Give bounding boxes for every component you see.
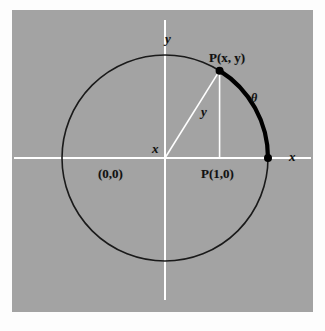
radius-segment: [165, 71, 220, 158]
x-axis-label: x: [289, 150, 296, 163]
theta-arc: [220, 71, 268, 158]
theta-label: θ: [251, 92, 257, 104]
point-p-10-dot: [264, 154, 272, 162]
leg-y-label: y: [201, 105, 207, 118]
diagram-panel: y x (0,0) P(x, y) P(1,0) θ x y: [12, 10, 313, 312]
point-p-xy-dot: [216, 67, 224, 75]
figure-canvas: y x (0,0) P(x, y) P(1,0) θ x y: [0, 0, 325, 331]
unit-circle-svg: [12, 10, 313, 312]
point-p-10-label: P(1,0): [201, 167, 234, 180]
y-axis-label: y: [165, 32, 171, 45]
origin-label: (0,0): [98, 167, 123, 180]
point-p-xy-label: P(x, y): [209, 51, 245, 64]
leg-x-label: x: [152, 142, 159, 155]
